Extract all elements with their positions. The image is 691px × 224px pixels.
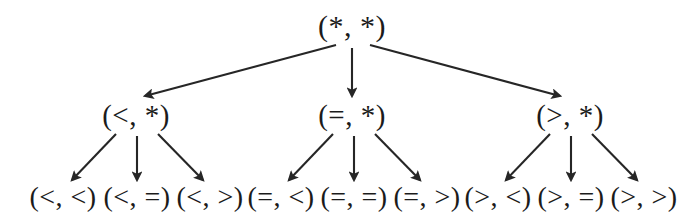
tree-node-mid-gt-label: (>, *): [536, 99, 604, 131]
tree-node-root: (*, *): [318, 11, 386, 41]
tree-node-leaf-eq-gt: (=, >): [393, 183, 460, 211]
tree-node-mid-eq-label: (=, *): [318, 99, 386, 131]
tree-node-leaf-gt-lt-label: (>, <): [464, 181, 531, 212]
edge-gt-gtgt: [592, 134, 637, 180]
tree-node-leaf-lt-gt: (<, >): [176, 183, 243, 211]
tree-node-leaf-eq-eq: (=, =): [320, 183, 387, 211]
edge-root-gt: [370, 45, 560, 96]
tree-node-leaf-lt-eq-label: (<, =): [103, 181, 170, 212]
edge-eq-eqgt: [375, 134, 420, 180]
tree-node-mid-lt: (<, *): [102, 101, 170, 130]
tree-node-leaf-lt-lt: (<, <): [29, 183, 96, 211]
tree-node-leaf-eq-lt-label: (=, <): [247, 181, 314, 212]
tree-node-leaf-lt-eq: (<, =): [103, 183, 170, 211]
edge-lt-ltgt: [158, 134, 203, 180]
tree-node-root-label: (*, *): [318, 9, 386, 42]
tree-node-leaf-gt-gt: (>, >): [610, 183, 677, 211]
tree-node-mid-eq: (=, *): [318, 101, 386, 130]
tree-node-leaf-lt-lt-label: (<, <): [29, 181, 96, 212]
tree-node-leaf-gt-eq-label: (>, =): [537, 181, 604, 212]
edge-lt-ltlt: [72, 134, 116, 180]
tree-node-leaf-eq-eq-label: (=, =): [320, 181, 387, 212]
tree-node-leaf-eq-lt: (=, <): [247, 183, 314, 211]
tree-node-mid-lt-label: (<, *): [102, 99, 170, 131]
edge-root-lt: [145, 45, 336, 96]
tree-node-leaf-lt-gt-label: (<, >): [176, 181, 243, 212]
edge-gt-gtlt: [506, 134, 550, 180]
tree-node-leaf-gt-gt-label: (>, >): [610, 181, 677, 212]
tree-node-leaf-eq-gt-label: (=, >): [393, 181, 460, 212]
edge-eq-eqlt: [289, 134, 333, 180]
tree-node-mid-gt: (>, *): [536, 101, 604, 130]
tree-node-leaf-gt-eq: (>, =): [537, 183, 604, 211]
tree-node-leaf-gt-lt: (>, <): [464, 183, 531, 211]
tree-diagram: (*, *) (<, *) (=, *) (>, *) (<, <) (<, =…: [0, 0, 691, 224]
